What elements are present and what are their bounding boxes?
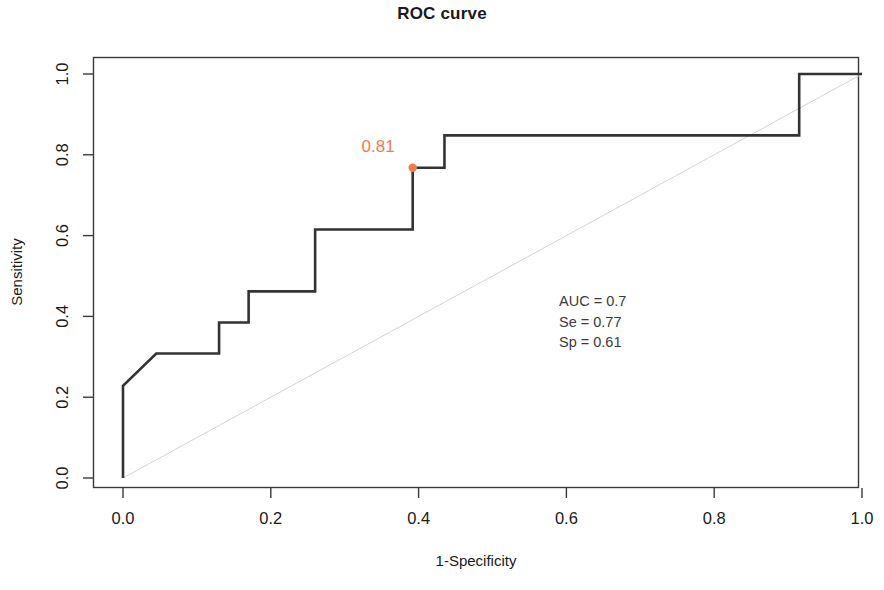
x-tick-label: 0.6	[555, 509, 578, 527]
y-tick-label: 1.0	[53, 63, 71, 86]
x-axis-ticks	[123, 488, 862, 498]
data-series-layer	[123, 74, 862, 478]
y-tick-label: 0.6	[53, 224, 71, 247]
x-tick-label: 0.4	[407, 509, 430, 527]
roc-chart-figure: ROC curve 0.00.20.40.60.81.0 0.00.20.40.…	[0, 0, 884, 590]
x-axis-tick-labels: 0.00.20.40.60.81.0	[112, 509, 874, 527]
y-tick-label: 0.2	[53, 386, 71, 409]
y-axis-title: Sensitivity	[8, 238, 25, 306]
operating-point-label: 0.81	[362, 137, 395, 156]
x-tick-label: 0.2	[259, 509, 282, 527]
plot-frame	[94, 58, 859, 488]
x-tick-label: 0.8	[703, 509, 726, 527]
operating-point-marker	[408, 164, 416, 172]
x-tick-label: 1.0	[851, 509, 874, 527]
stat-annotation: Se = 0.77	[559, 314, 621, 330]
x-axis-title: 1-Specificity	[436, 552, 517, 569]
y-tick-label: 0.8	[53, 143, 71, 166]
stats-annotation-block: AUC = 0.7Se = 0.77Sp = 0.61	[559, 293, 626, 349]
stat-annotation: Sp = 0.61	[559, 334, 621, 350]
roc-plot-area: 0.00.20.40.60.81.0 0.00.20.40.60.81.0 0.…	[0, 0, 884, 590]
y-axis-tick-labels: 0.00.20.40.60.81.0	[53, 63, 71, 490]
marked-point-layer: 0.81	[362, 137, 417, 172]
x-tick-label: 0.0	[112, 509, 135, 527]
y-axis-ticks	[83, 74, 93, 478]
y-tick-label: 0.4	[53, 305, 71, 328]
y-tick-label: 0.0	[53, 467, 71, 490]
stat-annotation: AUC = 0.7	[559, 293, 626, 309]
